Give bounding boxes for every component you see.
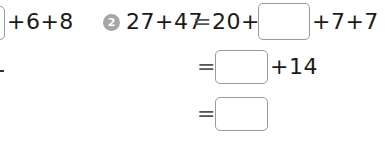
problem2-line3-equals: = (197, 101, 216, 127)
problem2-line1-answer-box[interactable] (258, 3, 310, 40)
problem1-answer-box-partial[interactable] (0, 6, 5, 40)
problem-number-badge: 2 (103, 14, 120, 31)
problem2-line1-suffix: +7+7 (312, 9, 379, 35)
problem2-line2-suffix: +14 (270, 54, 318, 80)
problem2-line2-answer-box[interactable] (215, 50, 268, 84)
problem1-tail-expression: +6+8 (7, 9, 74, 35)
problem2-line1-equals: = (193, 9, 212, 35)
problem1-line2-fragment (0, 70, 4, 72)
problem2-lhs: 27+47 (126, 9, 203, 35)
problem2-line1-prefix: 20+ (212, 9, 260, 35)
problem2-line3-answer-box[interactable] (215, 97, 268, 131)
problem2-line2-equals: = (197, 54, 216, 80)
